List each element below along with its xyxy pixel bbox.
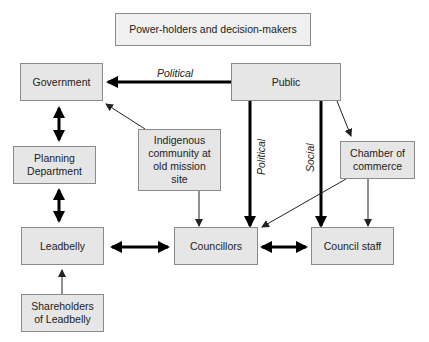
edge-label-political-top: Political: [157, 67, 194, 79]
edge-public-chamber: [337, 101, 351, 136]
node-shareholders: Shareholders of Leadbelly: [21, 294, 104, 332]
node-leadbelly-label: Leadbelly: [40, 240, 85, 253]
title-box: Power-holders and decision-makers: [115, 13, 311, 46]
node-shareholders-label: Shareholders of Leadbelly: [26, 300, 99, 326]
edge-label-social: Social: [304, 143, 316, 172]
edge-label-political-vertical: Political: [255, 138, 267, 175]
edge-chamber-councillors: [262, 179, 346, 227]
node-planning-label: Planning Department: [20, 152, 89, 178]
node-government: Government: [20, 63, 103, 101]
node-councillors-label: Councillors: [190, 240, 242, 253]
node-public-label: Public: [272, 76, 301, 89]
node-public: Public: [231, 63, 341, 101]
edge-indigenous-government: [106, 104, 145, 129]
node-planning-department: Planning Department: [13, 146, 96, 184]
node-council-staff: Council staff: [311, 227, 394, 265]
node-indigenous-community: Indigenous community at old mission site: [138, 129, 221, 191]
node-chamber-of-commerce: Chamber of commerce: [340, 141, 415, 179]
node-councillors: Councillors: [174, 227, 258, 265]
node-chamber-label: Chamber of commerce: [345, 147, 410, 173]
node-government-label: Government: [33, 76, 91, 89]
node-council-staff-label: Council staff: [324, 240, 382, 253]
node-indigenous-label: Indigenous community at old mission site: [145, 134, 214, 186]
node-leadbelly: Leadbelly: [21, 227, 104, 265]
diagram-title: Power-holders and decision-makers: [129, 23, 297, 36]
